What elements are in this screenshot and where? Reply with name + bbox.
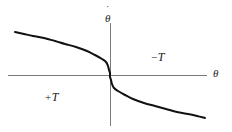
torque-symbol: T (158, 50, 165, 64)
plus-sign: + (45, 91, 52, 103)
plot-canvas (0, 0, 232, 132)
axes-group (8, 23, 207, 126)
x-axis-label: θ (213, 68, 218, 79)
y-axis-label: ˙ θ (105, 8, 110, 24)
negative-torque-region-label: −T (151, 51, 164, 63)
torque-symbol: T (52, 90, 59, 104)
theta-symbol: θ (105, 12, 110, 24)
minus-sign: − (151, 51, 158, 63)
phase-plane-figure: ˙ θ θ −T +T (0, 0, 232, 132)
positive-torque-region-label: +T (45, 91, 58, 103)
